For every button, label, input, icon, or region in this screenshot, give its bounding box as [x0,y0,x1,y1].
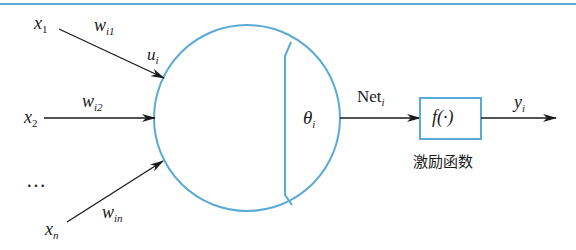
weight-sub: i1 [106,25,115,37]
input-label-xn: xn [45,220,59,241]
input-sub: n [53,229,59,241]
sum-sub: i [156,54,159,66]
output-var: y [514,92,522,112]
activation-caption: 激励函数 [413,150,473,171]
input-label-x2: x2 [24,108,38,129]
weight-sub: in [114,212,123,224]
activation-function-label: f(·) [432,108,454,126]
sum-var: u [147,45,156,64]
weight-var: w [82,91,94,111]
weight-var: w [102,202,114,222]
diagram-graphics [0,0,576,250]
weight-var: w [94,15,106,35]
output-sub: i [522,102,525,114]
weight-label-wi1: wi1 [94,16,115,37]
input-label-x1: x1 [34,14,48,35]
threshold-var: θ [303,107,312,128]
net-label: Neti [357,88,385,108]
input-var: x [24,107,32,127]
input-sub: 2 [32,117,38,129]
sum-label-ui: ui [147,46,159,66]
input-var: x [34,13,42,33]
weight-label-win: win [102,203,123,224]
input-ellipsis: … [26,170,46,190]
neuron-diagram: x1 wi1 ui wi2 x2 … win xn θi Neti f(·) 激… [0,0,576,250]
weight-sub: i2 [94,101,103,113]
threshold-label: θi [303,108,315,130]
net-sub: i [382,96,385,108]
threshold-partition-line [285,42,292,205]
net-text: Net [357,87,382,106]
weight-label-wi2: wi2 [82,92,103,113]
input-sub: 1 [42,23,48,35]
input-var: x [45,219,53,239]
output-label-yi: yi [514,93,525,114]
threshold-sub: i [312,118,315,130]
